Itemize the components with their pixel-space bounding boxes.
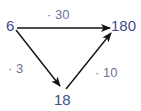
node-18-label: 18 [54,91,71,108]
multiplication-diagram: 6 180 18 · 30 · 3 · 10 [0,0,141,111]
edge-6-to-18-arrow [16,30,60,86]
node-6-label: 6 [6,17,14,34]
node-180-label: 180 [111,17,136,34]
edge-18-to-180-label: · 10 [95,65,117,80]
edge-6-to-180-label: · 30 [47,7,69,22]
edge-18-to-180-arrow [66,33,111,89]
edge-6-to-18-label: · 3 [8,61,23,76]
